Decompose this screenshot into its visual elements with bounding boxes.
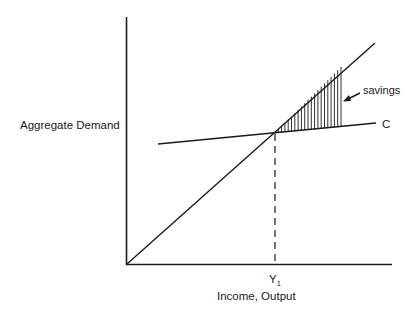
x-axis-label: Income, Output — [217, 290, 296, 302]
keynesian-cross-diagram: Aggregate Demand savings C Y1 Income, Ou… — [0, 0, 415, 310]
consumption-line — [158, 123, 376, 144]
y-axis-label: Aggregate Demand — [20, 119, 120, 131]
savings-arrow-icon — [343, 93, 360, 102]
equilibrium-label-subscript: 1 — [277, 279, 281, 288]
savings-label: savings — [363, 84, 401, 96]
consumption-label: C — [382, 118, 390, 130]
forty-five-degree-line — [127, 43, 375, 264]
savings-hatch-region — [278, 67, 341, 133]
equilibrium-label: Y1 — [269, 273, 281, 288]
